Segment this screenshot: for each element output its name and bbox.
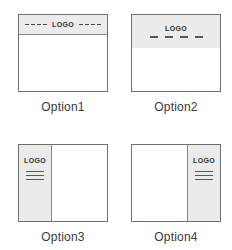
menu-lines-group [26,171,44,180]
logo-placeholder: LOGO [165,25,187,32]
dash-icon [97,24,101,25]
sidebar-panel-right: LOGO [187,145,220,221]
menu-line-icon [195,171,213,172]
dash-icon [37,24,41,25]
wireframe-option2[interactable]: LOGO [131,14,221,92]
wireframe-option1[interactable]: LOGO [18,14,108,92]
dash-icon [25,24,29,25]
menu-line-icon [195,179,213,180]
option-caption: Option4 [131,230,221,244]
nav-dash-icon [165,36,173,38]
option-caption: Option1 [18,100,108,114]
dash-group-right [79,24,101,25]
logo-placeholder: LOGO [24,157,46,164]
dash-group-left [25,24,47,25]
menu-line-icon [26,171,44,172]
option-card-option3[interactable]: LOGO Option3 [18,144,110,244]
nav-dash-icon [180,36,188,38]
option-caption: Option2 [131,100,221,114]
header-band: LOGO [19,15,107,35]
wireframe-option3[interactable]: LOGO [18,144,108,222]
dash-icon [91,24,95,25]
option-card-option1[interactable]: LOGO Option1 [18,14,110,114]
option-card-option2[interactable]: LOGO Option2 [131,14,223,114]
content-area [52,145,107,221]
menu-line-icon [26,179,44,180]
dash-icon [31,24,35,25]
nav-dash-icon [150,36,158,38]
dash-icon [43,24,47,25]
dash-icon [85,24,89,25]
menu-line-icon [26,175,44,176]
logo-placeholder: LOGO [52,21,74,28]
option-caption: Option3 [18,230,108,244]
menu-line-icon [195,175,213,176]
menu-lines-group [195,171,213,180]
nav-dash-icon [195,36,203,38]
content-area [132,145,187,221]
nav-items-row [150,36,203,38]
header-band: LOGO [132,15,220,48]
header-logo-row: LOGO [25,21,101,28]
option-card-option4[interactable]: LOGO Option4 [131,144,223,244]
logo-placeholder: LOGO [193,157,215,164]
dash-icon [79,24,83,25]
layout-options-sheet: LOGO Option1 LOGO [0,0,232,250]
sidebar-panel-left: LOGO [19,145,52,221]
wireframe-option4[interactable]: LOGO [131,144,221,222]
